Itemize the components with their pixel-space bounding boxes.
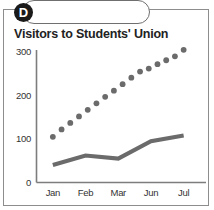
chart-title: Visitors to Students' Union bbox=[14, 27, 204, 41]
label-tab bbox=[22, 0, 150, 24]
data-point-marker bbox=[94, 100, 100, 106]
data-point-marker bbox=[120, 81, 126, 87]
data-point-marker bbox=[50, 134, 56, 140]
chart-series bbox=[50, 47, 187, 165]
data-point-marker bbox=[137, 69, 143, 75]
data-point-marker bbox=[181, 47, 187, 53]
data-point-marker bbox=[102, 94, 108, 100]
figure-panel: D Visitors to Students' Union 0100200300… bbox=[0, 0, 214, 210]
data-point-marker bbox=[76, 113, 82, 119]
panel-letter-badge: D bbox=[14, 3, 33, 22]
data-point-marker bbox=[111, 88, 117, 94]
data-point-marker bbox=[172, 53, 178, 59]
data-point-marker bbox=[85, 107, 91, 113]
data-point-marker bbox=[163, 57, 169, 63]
data-line-series bbox=[53, 136, 184, 166]
data-point-marker bbox=[67, 120, 73, 126]
data-point-marker bbox=[155, 61, 161, 67]
data-point-marker bbox=[146, 66, 152, 72]
data-point-marker bbox=[128, 75, 134, 81]
data-point-marker bbox=[59, 127, 65, 133]
